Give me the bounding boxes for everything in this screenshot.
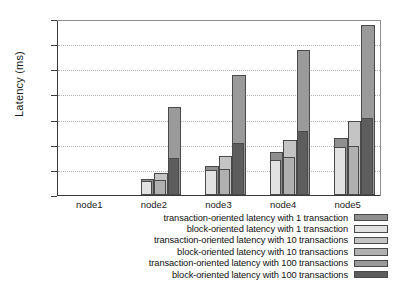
legend-item: block-oriented latency with 10 transacti…	[120, 246, 388, 257]
bar	[141, 181, 153, 195]
legend-label: block-oriented latency with 100 transact…	[172, 270, 348, 280]
x-axis-tick-label: node3	[186, 199, 251, 210]
bar	[348, 146, 360, 195]
legend-item: transaction-oriented latency with 100 tr…	[120, 258, 388, 269]
plot-area	[57, 20, 380, 196]
x-axis-tick-label: node1	[57, 199, 122, 210]
y-axis-tick-mark	[51, 196, 57, 197]
legend-item: block-oriented latency with 100 transact…	[120, 269, 388, 280]
bar	[283, 157, 295, 195]
plot-right-border	[380, 20, 381, 196]
y-axis-title: Latency (ms)	[13, 29, 25, 139]
x-axis-tick-label: node2	[122, 199, 187, 210]
bar-group	[187, 20, 252, 195]
bar	[361, 118, 373, 195]
plot-top-border	[57, 20, 380, 21]
bar	[154, 180, 166, 195]
legend-item: transaction-oriented latency with 1 tran…	[120, 212, 388, 223]
legend-item: transaction-oriented latency with 10 tra…	[120, 235, 388, 246]
legend-swatch	[354, 260, 388, 268]
legend-label: block-oriented latency with 10 transacti…	[177, 247, 348, 257]
legend-item: block-oriented latency with 1 transactio…	[120, 223, 388, 234]
chart-figure: Latency (ms) 7006005004003002001000 node…	[0, 0, 399, 286]
legend-label: transaction-oriented latency with 100 tr…	[149, 258, 348, 268]
legend-label: block-oriented latency with 1 transactio…	[187, 224, 348, 234]
legend-swatch	[354, 214, 388, 222]
bar	[219, 169, 231, 195]
x-axis-tick-label: node5	[315, 199, 380, 210]
chart-legend: transaction-oriented latency with 1 tran…	[120, 212, 388, 280]
bar	[270, 160, 282, 195]
legend-swatch	[354, 237, 388, 245]
bar	[232, 143, 244, 195]
legend-swatch	[354, 225, 388, 233]
legend-swatch	[354, 271, 388, 279]
bar-group	[123, 20, 188, 195]
bar	[205, 170, 217, 195]
bar-group	[316, 20, 381, 195]
x-axis-tick-label: node4	[251, 199, 316, 210]
bar	[168, 158, 180, 195]
bar-group	[252, 20, 317, 195]
legend-swatch	[354, 248, 388, 256]
bar	[297, 131, 309, 195]
bar	[334, 147, 346, 195]
legend-label: transaction-oriented latency with 1 tran…	[164, 213, 348, 223]
legend-label: transaction-oriented latency with 10 tra…	[154, 235, 348, 245]
bar-group	[58, 20, 123, 195]
